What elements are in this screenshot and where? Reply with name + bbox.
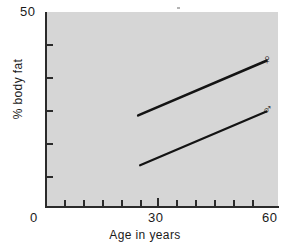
- female-symbol-icon: ♀: [262, 52, 273, 66]
- chart-figure: 50 0 30 60 ♀ ♂ Age in years % body fat: [0, 0, 290, 250]
- series-line-male: [140, 112, 266, 166]
- x-axis-title: Age in years: [0, 228, 290, 242]
- series-lines-layer: [0, 0, 290, 250]
- male-symbol-icon: ♂: [262, 102, 273, 116]
- y-axis-title: % body fat: [11, 39, 25, 139]
- series-line-female: [138, 61, 266, 116]
